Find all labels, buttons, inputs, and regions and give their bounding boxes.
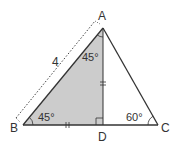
- vertex-label-b: B: [10, 121, 18, 135]
- angle-arc-c: [148, 116, 153, 125]
- angle-label-b: 45°: [38, 111, 55, 123]
- side-length-label: 4: [52, 55, 59, 69]
- angle-label-c: 60°: [126, 111, 143, 123]
- vertex-label-a: A: [98, 9, 106, 23]
- vertex-label-d: D: [98, 130, 107, 144]
- triangle-diagram: A B C D 4 45° 45° 60°: [0, 0, 183, 148]
- vertex-label-c: C: [161, 121, 170, 135]
- angle-label-a: 45°: [82, 51, 99, 63]
